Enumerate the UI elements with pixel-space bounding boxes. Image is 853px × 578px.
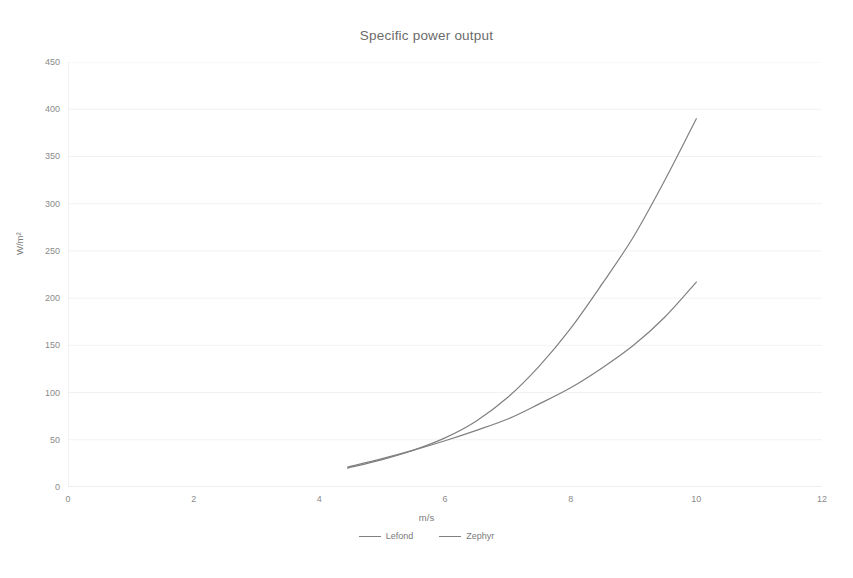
legend-item[interactable]: Lefond bbox=[359, 531, 414, 541]
chart-title: Specific power output bbox=[0, 28, 853, 43]
legend-label: Lefond bbox=[386, 531, 414, 541]
legend-line-icon bbox=[439, 536, 461, 537]
y-tick-label: 350 bbox=[18, 151, 60, 161]
y-tick-label: 0 bbox=[18, 482, 60, 492]
x-tick-label: 6 bbox=[425, 494, 465, 504]
legend-line-icon bbox=[359, 536, 381, 537]
x-tick-label: 2 bbox=[174, 494, 214, 504]
y-tick-label: 300 bbox=[18, 199, 60, 209]
y-tick-label: 50 bbox=[18, 435, 60, 445]
x-tick-label: 8 bbox=[551, 494, 591, 504]
legend-label: Zephyr bbox=[466, 531, 494, 541]
y-tick-label: 400 bbox=[18, 104, 60, 114]
legend-item[interactable]: Zephyr bbox=[439, 531, 494, 541]
x-axis-label: m/s bbox=[0, 512, 853, 523]
chart-legend: LefondZephyr bbox=[0, 531, 853, 541]
y-tick-label: 100 bbox=[18, 388, 60, 398]
plot-svg bbox=[68, 62, 822, 487]
plot-area bbox=[68, 62, 822, 487]
x-tick-label: 0 bbox=[48, 494, 88, 504]
y-tick-label: 200 bbox=[18, 293, 60, 303]
y-tick-label: 250 bbox=[18, 246, 60, 256]
chart-container: Specific power output W/m² m/s 050100150… bbox=[0, 0, 853, 578]
series-line-lefond bbox=[348, 119, 697, 468]
y-tick-label: 450 bbox=[18, 57, 60, 67]
y-tick-label: 150 bbox=[18, 340, 60, 350]
x-tick-label: 12 bbox=[802, 494, 842, 504]
x-tick-label: 10 bbox=[676, 494, 716, 504]
x-tick-label: 4 bbox=[299, 494, 339, 504]
